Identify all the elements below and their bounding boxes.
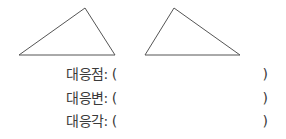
closing-paren: )	[263, 111, 268, 131]
triangles-figure	[0, 0, 286, 70]
corresponding-angles-row: 대응각: ( )	[66, 111, 276, 131]
corresponding-sides-row: 대응변: ( )	[66, 88, 276, 108]
corresponding-points-row: 대응점: ( )	[66, 64, 276, 84]
right-triangle	[145, 8, 240, 55]
corresponding-sides-label: 대응변: (	[66, 88, 117, 108]
closing-paren: )	[263, 64, 268, 84]
corresponding-angles-label: 대응각: (	[66, 111, 117, 131]
corresponding-points-label: 대응점: (	[66, 64, 117, 84]
left-triangle	[19, 8, 115, 55]
closing-paren: )	[263, 88, 268, 108]
